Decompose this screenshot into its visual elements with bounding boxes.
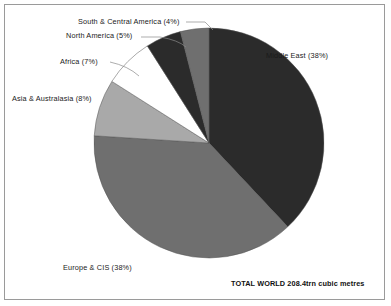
pie-label-asia-australasia: Asia & Australasia (8%): [12, 95, 92, 103]
pie-label-south-central-america: South & Central America (4%): [78, 18, 180, 26]
pie-slice-group: [94, 28, 324, 258]
pie-label-north-america: North America (5%): [66, 32, 132, 40]
pie-chart-graphic: [0, 0, 391, 306]
pie-chart-area: South & Central America (4%) North Ameri…: [0, 0, 391, 306]
pie-label-africa: Africa (7%): [60, 58, 98, 66]
pie-label-europe-cis: Europe & CIS (38%): [63, 264, 132, 272]
total-world-label: TOTAL WORLD 208.4trn cubic metres: [231, 279, 364, 288]
pie-label-middle-east: Middle East (38%): [266, 52, 328, 60]
